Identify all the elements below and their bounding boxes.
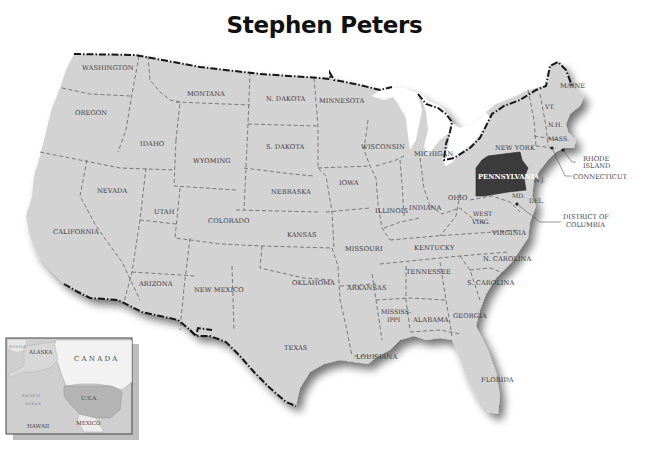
label-wisconsin: WISCONSIN [361, 143, 405, 151]
label-new-mexico: NEW MEXICO [194, 286, 244, 294]
label-georgia: GEORGIA [453, 312, 487, 320]
label-idaho: IDAHO [140, 140, 165, 148]
label-ohio: OHIO [448, 194, 468, 202]
inset-russia: RUSSIA [9, 345, 26, 349]
label-west-virg-1: WEST [473, 210, 493, 217]
label-mass: MASS. [548, 135, 569, 142]
inset-alaska: ALASKA [28, 349, 53, 355]
inset-pacific-1: PACIFIC [22, 394, 41, 398]
label-washington: WASHINGTON [82, 64, 134, 72]
label-nj: N.J. [534, 176, 545, 184]
label-wyoming: WYOMING [193, 157, 231, 165]
label-minnesota: MINNESOTA [319, 97, 364, 105]
inset-usa: U.S.A. [81, 395, 98, 401]
label-new-york: NEW YORK [495, 144, 536, 152]
label-montana: MONTANA [187, 90, 225, 98]
label-arkansas: ARKANSAS [346, 284, 387, 292]
label-west-virg-2: VIRG. [471, 218, 490, 225]
inset-pacific-2: OCEAN [25, 402, 41, 406]
label-del: DEL. [529, 197, 545, 204]
label-s-carolina: S. CAROLINA [467, 279, 514, 287]
label-kentucky: KENTUCKY [414, 244, 455, 252]
label-mississippi-2: IPPI [387, 316, 401, 323]
label-arizona: ARIZONA [138, 280, 173, 288]
label-iowa: IOWA [339, 179, 359, 187]
label-colorado: COLORADO [208, 217, 250, 225]
label-illinois: ILLINOIS [375, 207, 408, 215]
label-utah: UTAH [154, 208, 175, 216]
label-california: CALIFORNIA [53, 228, 99, 236]
callout-rhode-island-2: ISLAND [583, 162, 610, 170]
label-maine: MAINE [560, 82, 585, 90]
label-florida: FLORIDA [481, 376, 514, 384]
label-oklahoma: OKLAHOMA [292, 279, 335, 287]
inset-map: RUSSIA ALASKA CANADA U.S.A. PACIFIC OCEA… [6, 338, 139, 440]
label-nh: N.H. [548, 121, 562, 128]
label-nebraska: NEBRASKA [271, 188, 311, 196]
label-n-carolina: N. CAROLINA [483, 255, 531, 263]
label-indiana: INDIANA [409, 204, 441, 212]
inset-canada: CANADA [74, 355, 119, 363]
label-md: MD. [512, 192, 525, 199]
callout-dc-2: COLUMBIA [566, 221, 605, 229]
inset-mexico: MEXICO [76, 420, 101, 426]
label-oregon: OREGON [75, 109, 107, 117]
label-missouri: MISSOURI [345, 245, 383, 253]
label-n-dakota: N. DAKOTA [266, 95, 306, 103]
label-vt: VT. [544, 103, 555, 110]
label-texas: TEXAS [284, 344, 308, 352]
label-alabama: ALABAMA [412, 316, 449, 324]
label-tennessee: TENNESSEE [406, 268, 451, 276]
label-nevada: NEVADA [97, 187, 127, 195]
us-map: WASHINGTON OREGON CALIFORNIA NEVADA IDAH… [0, 0, 649, 459]
callout-dc-1: DISTRICT OF [563, 213, 609, 221]
label-virginia: VIRGINIA [491, 229, 526, 237]
inset-hawaii: HAWAII [27, 423, 49, 429]
label-kansas: KANSAS [287, 231, 317, 239]
callout-connecticut: CONNECTICUT [573, 173, 627, 181]
label-michigan: MICHIGAN [414, 150, 453, 158]
label-louisiana: LOUISIANA [356, 353, 397, 361]
label-pennsylvania: PENNSYLVANIA [478, 173, 540, 181]
label-s-dakota: S. DAKOTA [266, 143, 305, 151]
label-mississippi-1: MISSISS- [381, 308, 411, 315]
